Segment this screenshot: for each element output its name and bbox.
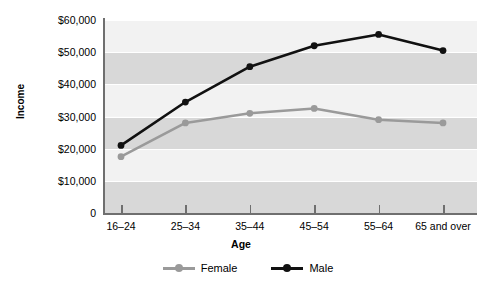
- y-axis-tick-labels: 0$10,000$20,000$30,000$40,000$50,000$60,…: [30, 0, 100, 298]
- x-axis-title: Age: [0, 238, 496, 250]
- legend-label: Female: [201, 262, 238, 274]
- income-by-age-line-chart: Income 0$10,000$20,000$30,000$40,000$50,…: [0, 0, 496, 298]
- data-point-male: [440, 47, 447, 54]
- y-axis-tick-label: $50,000: [58, 46, 96, 58]
- x-axis-tick-label: 25–34: [171, 220, 200, 232]
- x-axis-tick: [185, 205, 187, 214]
- y-axis-tick-label: $10,000: [58, 175, 96, 187]
- y-axis-tick-label: 0: [90, 207, 96, 219]
- chart-legend: FemaleMale: [0, 262, 496, 274]
- x-axis-tick-label: 65 and over: [415, 220, 470, 232]
- data-point-female: [440, 120, 447, 127]
- data-point-male: [182, 99, 189, 106]
- y-axis-line: [103, 18, 105, 213]
- series-line-male: [121, 34, 443, 145]
- plot-area: [103, 20, 477, 213]
- x-axis-tick-label: 45–54: [300, 220, 329, 232]
- x-axis-title-text: Age: [231, 238, 251, 250]
- y-axis-title: Income: [15, 52, 26, 152]
- legend-label: Male: [309, 262, 333, 274]
- legend-item[interactable]: Male: [271, 262, 333, 274]
- series-line-female: [121, 108, 443, 156]
- data-point-female: [182, 120, 189, 127]
- x-axis-tick-label: 35–44: [235, 220, 264, 232]
- legend-swatch-icon: [163, 263, 195, 273]
- data-point-female: [311, 105, 318, 112]
- y-axis-tick-label: $40,000: [58, 78, 96, 90]
- x-axis-tick: [314, 205, 316, 214]
- x-axis-tick: [443, 205, 445, 214]
- data-point-male: [375, 31, 382, 38]
- x-axis-tick: [379, 205, 381, 214]
- x-axis-tick-label: 55–64: [364, 220, 393, 232]
- x-axis-line: [103, 213, 477, 215]
- data-point-female: [118, 153, 125, 160]
- y-axis-tick-label: $30,000: [58, 111, 96, 123]
- legend-swatch-icon: [271, 263, 303, 273]
- x-axis-tick: [250, 205, 252, 214]
- series-lines: [103, 20, 477, 213]
- data-point-male: [246, 63, 253, 70]
- y-axis-tick-label: $60,000: [58, 14, 96, 26]
- x-axis-tick-label: 16–24: [106, 220, 135, 232]
- data-point-male: [118, 142, 125, 149]
- y-axis-tick-label: $20,000: [58, 143, 96, 155]
- data-point-female: [246, 110, 253, 117]
- legend-item[interactable]: Female: [163, 262, 238, 274]
- data-point-female: [375, 116, 382, 123]
- x-axis-tick: [121, 205, 123, 214]
- data-point-male: [311, 42, 318, 49]
